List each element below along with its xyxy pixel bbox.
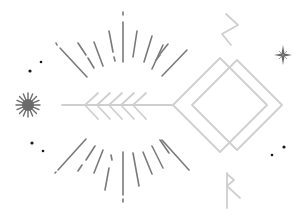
- boho-line-art-illustration: [0, 0, 306, 220]
- rune-bottom-r-icon: [227, 173, 240, 208]
- sunburst-icon: [16, 93, 40, 117]
- arrow: [62, 93, 172, 119]
- four-point-star-icon: [274, 45, 292, 65]
- rune-top-zigzag-icon: [222, 14, 238, 45]
- dot-pair-bottom-left: [30, 141, 44, 152]
- sun-rays-top: [56, 12, 187, 77]
- sun-rays-bottom: [55, 139, 189, 202]
- arrow-fletching: [85, 93, 146, 119]
- double-diamond: [173, 58, 282, 152]
- dot-pair-right: [271, 145, 286, 156]
- dot-pair-top-left: [28, 61, 42, 73]
